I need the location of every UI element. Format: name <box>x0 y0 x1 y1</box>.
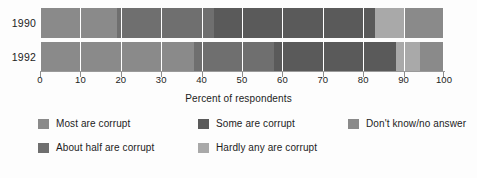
legend-item: Hardly any are corrupt <box>198 140 317 156</box>
legend-item: Don't know/no answer <box>348 116 466 132</box>
legend-label: About half are corrupt <box>56 143 154 153</box>
legend-swatch-icon <box>348 119 359 129</box>
bar-segment <box>375 8 403 38</box>
legend-swatch-icon <box>38 119 49 129</box>
tick-label: 50 <box>237 74 248 85</box>
legend-label: Hardly any are corrupt <box>216 143 317 153</box>
bar-segment <box>396 42 420 72</box>
tick-label: 30 <box>156 74 167 85</box>
bar-segment <box>274 42 395 72</box>
legend-swatch-icon <box>38 143 49 153</box>
x-axis-title: Percent of respondents <box>0 93 477 104</box>
tick-label: 0 <box>37 74 42 85</box>
legend-item: Most are corrupt <box>38 116 130 132</box>
tick-label: 10 <box>75 74 86 85</box>
bar-segment <box>40 42 194 72</box>
tick-label: 60 <box>277 74 288 85</box>
plot-area: 1990 1992 0102030405060708090100 Percent… <box>0 0 477 84</box>
category-label-1992: 1992 <box>8 42 36 72</box>
tick-label: 20 <box>115 74 126 85</box>
tick-label: 100 <box>436 74 452 85</box>
tick-label: 90 <box>398 74 409 85</box>
bar-segment <box>40 8 117 38</box>
tick-label: 40 <box>196 74 207 85</box>
bar-segment <box>420 42 444 72</box>
chart-legend: Most are corruptSome are corruptDon't kn… <box>0 116 477 166</box>
stacked-bar-1992 <box>40 42 444 72</box>
tick-label: 70 <box>317 74 328 85</box>
bar-segment <box>404 8 444 38</box>
legend-swatch-icon <box>198 143 209 153</box>
legend-item: About half are corrupt <box>38 140 154 156</box>
legend-swatch-icon <box>198 119 209 129</box>
legend-item: Some are corrupt <box>198 116 295 132</box>
legend-label: Some are corrupt <box>216 119 295 129</box>
stacked-bar-chart: 1990 1992 0102030405060708090100 Percent… <box>0 0 477 178</box>
bar-segment <box>194 42 275 72</box>
category-label-1990: 1990 <box>8 8 36 38</box>
stacked-bar-1990 <box>40 8 444 38</box>
legend-label: Most are corrupt <box>56 119 130 129</box>
bar-segment <box>117 8 214 38</box>
legend-label: Don't know/no answer <box>366 119 466 129</box>
tick-label: 80 <box>358 74 369 85</box>
bar-segment <box>214 8 376 38</box>
